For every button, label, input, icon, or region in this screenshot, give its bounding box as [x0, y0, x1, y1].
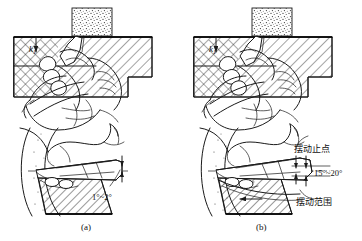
- panel-b-side-view: 摆动止点 15°~20° 摆动范围: [200, 124, 342, 216]
- panel-a-side-view: 1°~2°: [20, 124, 128, 216]
- caption-a: (a): [81, 222, 91, 232]
- swing-range-label: 摆动范围: [296, 196, 332, 207]
- caption-b: (b): [256, 222, 267, 232]
- scraper-profile-a: [36, 160, 122, 180]
- panel-b-top-view: k1: [194, 8, 332, 130]
- angle-label-b: 15°~20°: [314, 168, 342, 178]
- hand-profile-a: [20, 124, 124, 166]
- scraper-profile-b: [216, 158, 312, 180]
- scraping-technique-figure: k1: [0, 0, 362, 241]
- panel-a-top-view: k1: [14, 8, 152, 130]
- swing-stop-point-label: 摆动止点: [294, 143, 330, 154]
- figure-canvas: k1: [0, 0, 362, 241]
- stipple-block-a: [72, 8, 112, 36]
- angle-label-a: 1°~2°: [92, 192, 112, 202]
- stipple-block-b: [252, 8, 292, 36]
